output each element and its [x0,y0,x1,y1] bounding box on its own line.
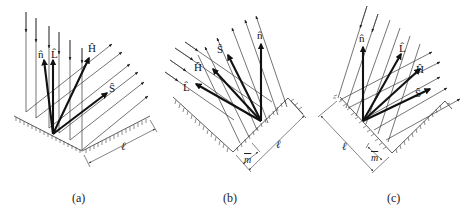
caption-a: (a) [72,191,85,205]
label-h: Ĥ [194,61,202,73]
panel-b: n̂ Ŝ Ĥ L̂ ℓ m (b) [165,16,306,205]
label-h: Ĥ [88,42,96,54]
label-n: n̂ [359,32,365,44]
label-n: n̂ [257,29,263,41]
h-vector [53,58,89,134]
h-vector [363,69,420,121]
surface [333,95,452,153]
label-n: n̂ [38,48,44,60]
label-s: Ŝ [217,43,223,55]
vectors [44,58,107,134]
reflected-rays [198,16,287,143]
length-label: ℓ [121,140,126,152]
vectors [196,44,261,121]
incident-rays [338,6,420,142]
offset-label: m [244,154,251,165]
label-l: L̂ [183,81,190,93]
length-label: ℓ [342,140,347,152]
panel-a: n̂ L̂ Ĥ Ŝ ℓ (a) [14,12,157,205]
label-l: L̂ [51,48,58,60]
label-h: Ĥ [416,63,424,75]
specular-geometry-figure: n̂ L̂ Ĥ Ŝ ℓ (a) [0,0,474,214]
caption-c: (c) [387,191,400,205]
label-s: Ŝ [109,82,115,94]
panel-c: n̂ L̂ Ĥ Ŝ ℓ m (c) [318,6,460,205]
reflected-rays [340,52,460,140]
label-l: L̂ [399,42,406,54]
caption-b: (b) [223,191,237,205]
label-s: Ŝ [415,87,421,99]
surface [173,97,303,152]
offset-label: m [371,152,378,163]
length-label: ℓ [276,138,281,150]
